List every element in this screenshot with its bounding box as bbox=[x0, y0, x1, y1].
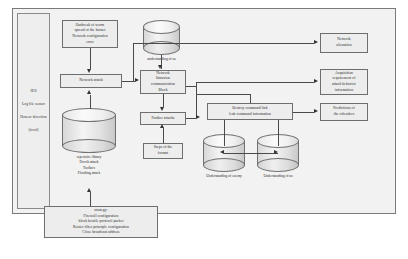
node-network-intrusion-block-label: Network Intrusion communication Block bbox=[151, 71, 175, 93]
cylinder-bottom-ellipse bbox=[203, 158, 245, 172]
arrowhead-right bbox=[196, 115, 200, 119]
arrowhead-up bbox=[87, 90, 91, 94]
sidebar-item-local: (local) bbox=[19, 128, 49, 133]
node-steps-of-the-format: Steps of the format bbox=[143, 143, 183, 159]
node-steps-of-the-format-label: Steps of the format bbox=[154, 145, 172, 156]
connector-trunk-to-destroy-horizontal bbox=[196, 94, 250, 95]
monitoring-sidebar: IDS Log file sensor Honeor detection (lo… bbox=[17, 13, 50, 209]
connector-repertoire-to-network-attack bbox=[90, 95, 91, 109]
node-further-attacks-label: Further attacks bbox=[151, 116, 174, 122]
node-strategy: strategy: Firewall configuration block h… bbox=[44, 206, 158, 238]
cylinder-repertoire-library-label: repertoire library Dvoch attack Toolbox … bbox=[29, 155, 149, 177]
arrowhead-right bbox=[314, 109, 318, 113]
cylinder-top-ellipse bbox=[62, 108, 116, 122]
connector-trunk-to-destroy-command bbox=[250, 94, 251, 103]
connector-destroy-to-understanding-us bbox=[278, 120, 279, 146]
connector-further-attacks-to-trunk bbox=[186, 118, 196, 119]
connector-intrusion-block-to-further-attacks bbox=[163, 94, 164, 107]
cylinder-repertoire-library: repertoire library Dvoch attack Toolbox … bbox=[62, 108, 116, 153]
node-network-attack-label: Network attack bbox=[79, 78, 103, 84]
connector-destroy-to-understanding-enemy bbox=[224, 120, 225, 146]
node-network-alienation-label: Network alienation bbox=[336, 37, 351, 48]
connector-bus-vertical-left bbox=[133, 77, 134, 82]
diagram-canvas: IDS Log file sensor Honeor detection (lo… bbox=[0, 0, 408, 259]
arrowhead-down bbox=[160, 107, 164, 111]
arrowhead-down bbox=[87, 69, 91, 73]
node-network-intrusion-block: Network Intrusion communication Block bbox=[140, 70, 186, 94]
sidebar-item-ids: IDS bbox=[19, 89, 49, 94]
connector-to-network-alienation bbox=[133, 43, 314, 44]
connector-between-bottom-cylinders bbox=[224, 153, 278, 154]
node-acquisition-requirement: Acquisition requirement of attack behavi… bbox=[320, 69, 368, 95]
arrowhead-left bbox=[220, 150, 224, 154]
sidebar-item-honeor-detection: Honeor detection bbox=[19, 115, 49, 120]
node-outbreak-of-worm-label: Outbreak of worm spread of the botnet Ne… bbox=[72, 23, 107, 45]
node-network-attack: Network attack bbox=[60, 74, 122, 88]
arrowhead-down bbox=[158, 65, 162, 69]
node-destroy-command-link-label: Destroy command link leak command inform… bbox=[229, 106, 271, 117]
arrowhead-up bbox=[160, 124, 164, 128]
connector-riser-to-network-alienation bbox=[133, 43, 134, 77]
connector-steps-to-further-attacks bbox=[163, 128, 164, 143]
cylinder-bottom-ellipse bbox=[62, 139, 116, 153]
arrowhead-right bbox=[314, 40, 318, 44]
cylinder-understanding-of-us-bottom-label: Understanding of us bbox=[218, 174, 338, 179]
cylinder-bottom-ellipse bbox=[257, 158, 299, 172]
node-outbreak-of-worm: Outbreak of worm spread of the botnet Ne… bbox=[62, 20, 118, 48]
arrowhead-right bbox=[135, 78, 139, 82]
node-predictions-of-offenders-label: Predictions of the offenders bbox=[333, 106, 355, 117]
cylinder-understanding-of-us-top: understanding of us bbox=[143, 20, 180, 55]
node-predictions-of-offenders: Predictions of the offenders bbox=[320, 103, 368, 121]
connector-trunk-vertical bbox=[196, 82, 197, 118]
node-strategy-label: strategy: Firewall configuration block h… bbox=[73, 208, 129, 236]
connector-destroy-to-predictions bbox=[293, 112, 314, 113]
connector-intrusion-block-to-trunk bbox=[186, 86, 196, 87]
arrowhead-up bbox=[87, 188, 91, 192]
connector-outbreak-to-network-attack bbox=[90, 48, 91, 69]
node-network-alienation: Network alienation bbox=[320, 33, 368, 53]
arrowhead-right bbox=[274, 150, 278, 154]
arrowhead-right bbox=[314, 79, 318, 83]
connector-to-acquisition-requirement bbox=[196, 82, 314, 83]
node-acquisition-requirement-label: Acquisition requirement of attack behavi… bbox=[332, 71, 356, 93]
sidebar-item-log-file-sensor: Log file sensor bbox=[19, 102, 49, 107]
connector-strategy-to-repertoire bbox=[90, 192, 91, 206]
node-destroy-command-link: Destroy command link leak command inform… bbox=[207, 103, 293, 120]
cylinder-top-ellipse bbox=[143, 20, 180, 34]
